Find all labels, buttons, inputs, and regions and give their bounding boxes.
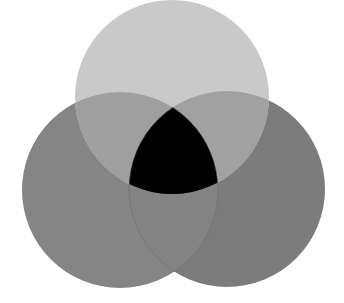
venn-diagram [0, 0, 344, 303]
venn-diagram-svg [0, 0, 344, 303]
